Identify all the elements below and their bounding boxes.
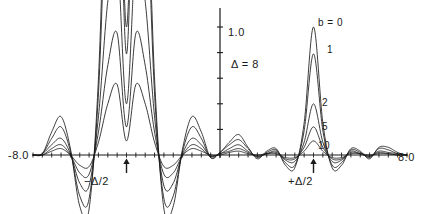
negative-half-delta-label: −Δ/2 [84, 176, 109, 187]
pos-half-delta-arrow [310, 159, 316, 174]
figure-panel: -8.0 8.0 1.0 Δ = 8 −Δ/2 +Δ/2 b = 0 1 2 5… [0, 0, 437, 214]
curve-label-b1: 1 [327, 45, 333, 55]
positive-half-delta-label: +Δ/2 [288, 176, 313, 187]
delta-annotation: Δ = 8 [231, 59, 259, 70]
x-axis-max-label: 8.0 [398, 152, 415, 163]
curve-label-b0: b = 0 [318, 18, 343, 28]
curve-label-b10: 10 [318, 141, 330, 151]
y-axis-tick-label: 1.0 [228, 27, 245, 38]
markers-group [123, 159, 316, 174]
curve-label-b5: 5 [322, 122, 328, 132]
axes-group [33, 8, 407, 158]
x-axis-min-label: -8.0 [8, 150, 29, 161]
curve-label-b2: 2 [322, 98, 328, 108]
arrow-head-icon [310, 159, 316, 165]
arrow-head-icon [123, 159, 129, 165]
neg-half-delta-arrow [123, 159, 129, 174]
plot-canvas [0, 0, 437, 214]
